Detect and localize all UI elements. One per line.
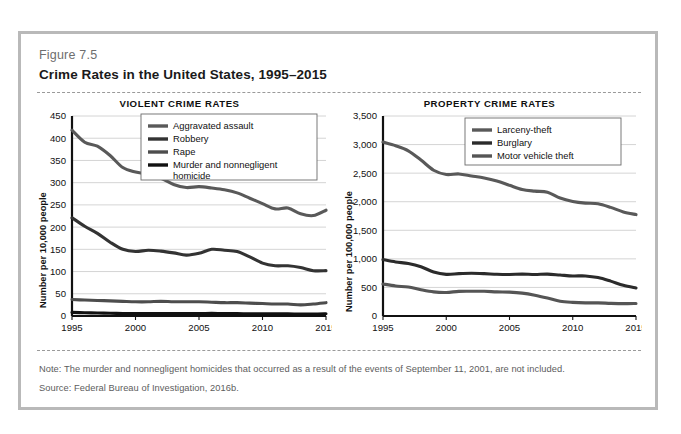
y-tick-label: 300 (50, 177, 66, 188)
chart-title-property: PROPERTY CRIME RATES (337, 98, 642, 109)
y-tick-label: 200 (50, 222, 66, 233)
x-tick-label: 2010 (562, 322, 583, 333)
y-tick-label: 0 (372, 310, 377, 321)
y-tick-label: 100 (50, 266, 66, 277)
x-tick-label: 2000 (125, 322, 146, 333)
legend-label-1: Robbery (173, 133, 209, 144)
legend-label-3: Murder and nonnegligent (173, 159, 278, 170)
series-line-2 (72, 300, 326, 305)
x-tick-label: 2005 (188, 322, 209, 333)
x-tick-label: 2000 (436, 322, 457, 333)
legend-label-0: Aggravated assault (173, 120, 254, 131)
y-tick-label: 450 (50, 110, 66, 121)
figure-number: Figure 7.5 (39, 48, 97, 62)
chart-title-violent: VIOLENT CRIME RATES (27, 98, 332, 109)
y-tick-label: 3,000 (353, 139, 377, 150)
plot-area-violent: 0501001502002503003504004501995200020052… (27, 110, 332, 340)
y-tick-label: 3,500 (353, 110, 377, 121)
legend-label-0: Larceny-theft (497, 124, 552, 135)
y-tick-label: 2,500 (353, 168, 377, 179)
y-tick-label: 0 (61, 310, 66, 321)
chart-panel-violent-crime: VIOLENT CRIME RATES Number per 10,000 pe… (27, 96, 332, 344)
legend-label-2: Rape (173, 146, 195, 157)
series-line-3 (72, 312, 326, 314)
series-line-1 (383, 260, 636, 288)
legend-label-3: homicide (173, 170, 211, 181)
figure-container: Figure 7.5 Crime Rates in the United Sta… (18, 31, 658, 410)
y-tick-label: 50 (55, 288, 66, 299)
y-tick-label: 1,500 (353, 225, 377, 236)
divider-top (37, 92, 641, 93)
x-tick-label: 2015 (625, 322, 642, 333)
y-tick-label: 150 (50, 244, 66, 255)
y-tick-label: 400 (50, 133, 66, 144)
figure-title: Crime Rates in the United States, 1995–2… (39, 67, 327, 82)
y-tick-label: 2,000 (353, 196, 377, 207)
series-line-1 (72, 218, 326, 271)
y-tick-label: 250 (50, 199, 66, 210)
x-tick-label: 1995 (372, 322, 393, 333)
series-line-2 (383, 284, 636, 304)
x-tick-label: 2005 (499, 322, 520, 333)
legend-label-1: Burglary (497, 137, 532, 148)
x-tick-label: 2015 (315, 322, 332, 333)
figure-note: Note: The murder and nonnegligent homici… (39, 364, 565, 374)
x-tick-label: 2010 (252, 322, 273, 333)
divider-bottom (37, 350, 641, 351)
y-tick-label: 500 (361, 282, 377, 293)
legend-label-2: Motor vehicle theft (497, 150, 574, 161)
y-tick-label: 350 (50, 155, 66, 166)
y-tick-label: 1,000 (353, 253, 377, 264)
chart-panel-property-crime: PROPERTY CRIME RATES Number per 100,000 … (337, 96, 642, 344)
figure-source: Source: Federal Bureau of Investigation,… (39, 383, 239, 393)
x-tick-label: 1995 (61, 322, 82, 333)
plot-area-property: 05001,0001,5002,0002,5003,0003,500199520… (337, 110, 642, 340)
